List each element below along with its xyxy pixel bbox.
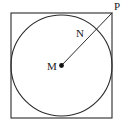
- label-point-p: P: [114, 1, 120, 12]
- label-point-n: N: [76, 28, 84, 39]
- label-point-m: M: [47, 61, 57, 72]
- center-point-dot: [59, 63, 64, 68]
- geometry-figure: P N M: [0, 0, 127, 126]
- geometry-canvas: [0, 0, 127, 126]
